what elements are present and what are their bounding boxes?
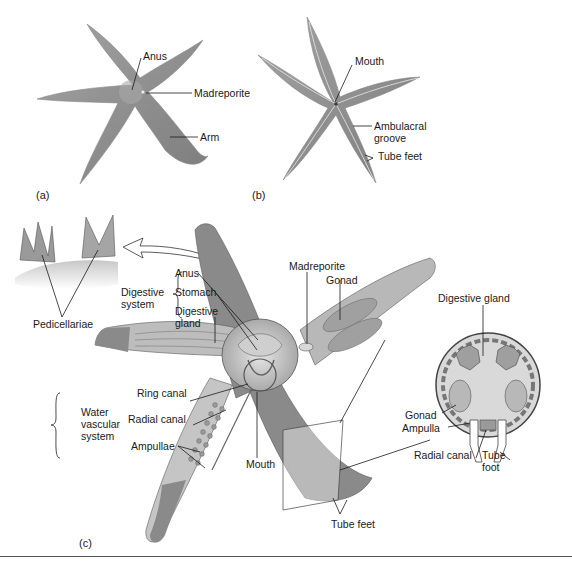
panel-letter-b: (b) xyxy=(252,189,265,201)
label-xs-tube-foot-1: Tube xyxy=(482,449,506,461)
label-madreporite-c: Madreporite xyxy=(289,260,345,272)
label-ambulacral-groove-2: groove xyxy=(374,132,406,144)
panel-letter-c: (c) xyxy=(79,537,92,549)
label-xs-gonad: Gonad xyxy=(405,409,437,421)
label-digestive-system-2: system xyxy=(121,298,154,310)
label-mouth: Mouth xyxy=(355,55,384,67)
arm-cross-section xyxy=(436,305,540,462)
cut-plane xyxy=(283,420,343,510)
label-pedicellariae: Pedicellariae xyxy=(33,318,93,330)
bottom-rule xyxy=(0,556,572,557)
label-tube-feet-c: Tube feet xyxy=(331,518,375,530)
label-xs-ampulla: Ampulla xyxy=(402,422,440,434)
label-xs-digestive-gland: Digestive gland xyxy=(438,292,510,304)
label-xs-radial-canal: Radial canal xyxy=(414,449,472,461)
label-digestive-gland-1: Digestive xyxy=(175,305,218,317)
panel-letter-a: (a) xyxy=(36,189,49,201)
label-mouth-c: Mouth xyxy=(246,458,275,470)
madreporite-dot xyxy=(141,90,144,93)
pedicellariae-inset xyxy=(15,215,218,317)
label-gonad-c: Gonad xyxy=(326,274,358,286)
label-digestive-gland-2: gland xyxy=(175,317,201,329)
label-water-vascular-2: vascular xyxy=(81,418,120,430)
label-anus-c: Anus xyxy=(175,267,199,279)
label-water-vascular-3: system xyxy=(81,430,114,442)
label-xs-tube-foot-2: foot xyxy=(482,461,500,473)
label-radial-canal: Radial canal xyxy=(128,413,186,425)
label-water-vascular-1: Water xyxy=(81,406,109,418)
label-tube-feet-b: Tube feet xyxy=(378,150,422,162)
starfish-anatomy-illustration xyxy=(0,0,572,566)
label-ambulacral-groove-1: Ambulacral xyxy=(374,120,427,132)
label-ampullae: Ampullae xyxy=(131,440,175,452)
water-vascular-bracket xyxy=(51,393,60,458)
label-madreporite: Madreporite xyxy=(194,87,250,99)
label-anus: Anus xyxy=(143,50,167,62)
madreporite-plate xyxy=(299,343,313,351)
label-arm: Arm xyxy=(200,131,219,143)
label-digestive-system-1: Digestive xyxy=(121,286,164,298)
label-ring-canal: Ring canal xyxy=(137,387,187,399)
starfish-aboral-view xyxy=(37,24,208,184)
label-stomach: Stomach xyxy=(175,286,216,298)
